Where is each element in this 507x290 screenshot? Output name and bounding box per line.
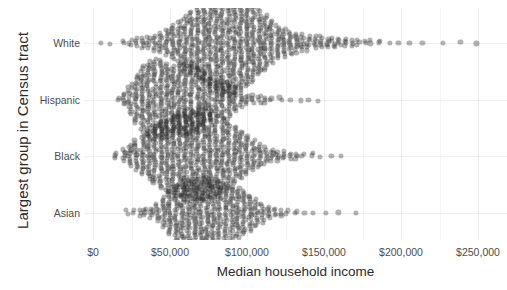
x-tick-0: $0	[87, 246, 99, 258]
data-point	[353, 211, 358, 216]
data-point	[262, 67, 267, 72]
x-tick-100000: $100,000	[225, 246, 269, 258]
x-tick-50000: $50,000	[151, 246, 189, 258]
data-point	[99, 41, 104, 46]
data-point	[241, 231, 246, 236]
data-point	[249, 79, 254, 84]
data-point	[275, 56, 280, 61]
data-point	[294, 50, 299, 55]
data-point	[140, 172, 145, 177]
y-axis-tick-labels: WhiteHispanicBlackAsian	[18, 0, 80, 290]
y-tick-hispanic: Hispanic	[18, 94, 80, 106]
data-point	[188, 9, 193, 14]
data-point	[151, 48, 156, 53]
data-point	[268, 158, 273, 163]
data-point	[252, 224, 257, 229]
y-tick-white: White	[18, 37, 80, 49]
data-point	[317, 154, 322, 159]
data-point	[288, 97, 293, 102]
data-point	[133, 167, 138, 172]
data-point	[145, 45, 150, 50]
data-point	[128, 163, 133, 168]
data-point	[354, 42, 359, 47]
data-point	[157, 49, 162, 54]
x-axis-title: Median household income	[84, 264, 507, 279]
data-point	[264, 13, 269, 18]
data-point	[458, 40, 463, 45]
data-point	[387, 40, 392, 45]
data-point	[248, 229, 253, 234]
data-point	[298, 98, 303, 103]
data-point	[282, 54, 287, 59]
x-tick-150000: $150,000	[302, 246, 346, 258]
data-point	[256, 164, 261, 169]
data-point	[108, 41, 113, 46]
data-point	[336, 210, 341, 215]
data-point	[338, 153, 343, 158]
data-point	[148, 216, 153, 221]
data-point	[440, 41, 445, 46]
data-point	[255, 72, 260, 77]
data-point	[275, 158, 280, 163]
data-point	[252, 137, 257, 142]
data-point	[139, 45, 144, 50]
x-tick-200000: $200,000	[379, 246, 423, 258]
data-point	[260, 220, 265, 225]
data-point	[329, 154, 334, 159]
data-point	[152, 34, 157, 39]
data-point	[316, 98, 321, 103]
data-point	[237, 235, 242, 240]
data-point	[407, 40, 412, 45]
data-point	[250, 167, 255, 172]
data-point	[112, 155, 117, 160]
y-tick-asian: Asian	[18, 207, 80, 219]
data-point	[272, 213, 277, 218]
data-point	[185, 239, 190, 240]
data-point	[332, 44, 337, 49]
data-point	[311, 210, 316, 215]
data-point	[163, 52, 168, 57]
data-point	[142, 213, 147, 218]
x-axis-tick-labels: $0$50,000$100,000$150,000$200,000$250,00…	[84, 246, 507, 262]
x-tick-250000: $250,000	[456, 246, 500, 258]
data-point	[325, 44, 330, 49]
data-point	[293, 156, 298, 161]
data-point	[306, 97, 311, 102]
data-point	[305, 48, 310, 53]
data-point	[174, 238, 179, 240]
data-point	[420, 41, 425, 46]
data-point	[151, 180, 156, 185]
data-point	[262, 100, 267, 105]
data-point	[342, 43, 347, 48]
data-point	[270, 60, 275, 65]
data-point	[233, 108, 238, 113]
beeswarm-chart: Largest group in Census tract WhiteHispa…	[0, 0, 507, 290]
data-point	[262, 161, 267, 166]
data-point	[239, 176, 244, 181]
data-point	[160, 224, 165, 229]
plot-panel	[84, 8, 507, 240]
data-point	[132, 120, 137, 125]
data-point	[324, 211, 329, 216]
data-point	[121, 158, 126, 163]
y-tick-black: Black	[18, 150, 80, 162]
data-point	[302, 210, 307, 215]
